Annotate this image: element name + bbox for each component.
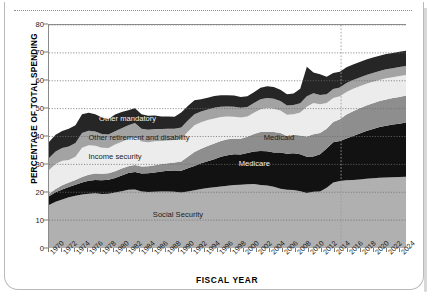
y-axis-tick-label: 40 [22, 132, 44, 141]
y-axis-tick-label: 60 [22, 76, 44, 85]
plot-area: Social SecurityMedicareMedicaidIncome se… [48, 24, 406, 248]
y-axis-tick-label: 30 [22, 160, 44, 169]
y-axis-tick-labels: 01020304050607080 [20, 24, 44, 248]
stacked-area-chart: PERCENTAGE OF TOTAL SPENDING 01020304050… [0, 0, 431, 296]
y-axis-tick-label: 70 [22, 48, 44, 57]
x-axis-title: FISCAL YEAR [48, 275, 406, 285]
y-axis-tick-label: 20 [22, 188, 44, 197]
y-axis-tick-label: 80 [22, 20, 44, 29]
plot-svg [49, 25, 406, 248]
y-axis-tick-label: 50 [22, 104, 44, 113]
y-axis-tick-label: 0 [22, 244, 44, 253]
y-axis-tick-label: 10 [22, 216, 44, 225]
